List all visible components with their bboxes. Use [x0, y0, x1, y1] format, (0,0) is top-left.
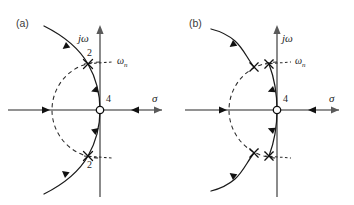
panel-b-tag: (b) [189, 18, 202, 29]
panel-b: (b) jω σ 4 ωn [177, 0, 354, 205]
omega-n-subscript-b: n [302, 61, 306, 69]
pole-marker-b-lower-outer [250, 149, 258, 157]
sigma-axis-label-b: σ [329, 93, 334, 104]
zero-value-a: 4 [106, 94, 111, 104]
locus-direction-arrow-b-1 [230, 40, 238, 47]
pole-marker-b-upper-outer [250, 63, 258, 71]
locus-direction-arrow-b-2 [268, 86, 276, 92]
locus-direction-arrow-a-4 [62, 171, 70, 178]
lower-pole-value-a: 2 [87, 160, 92, 170]
omega-n-subscript-a: n [124, 61, 128, 69]
real-axis-arrow-a-right [131, 107, 139, 114]
locus-direction-arrow-a-2 [63, 42, 71, 49]
sigma-axis-label-a: σ [152, 93, 157, 104]
panel-a-plot [0, 0, 177, 205]
zero-marker-b [273, 106, 280, 113]
panel-b-plot [177, 0, 354, 205]
omega-n-label-b: ωn [295, 56, 306, 69]
real-axis-arrow-b-left [219, 107, 227, 114]
omega-n-label-a: ωn [117, 56, 128, 69]
upper-pole-value-a: 2 [87, 48, 92, 58]
panel-a-tag: (a) [16, 18, 29, 29]
real-axis-arrow-a-left [42, 107, 50, 114]
zero-marker-a [96, 106, 103, 113]
locus-direction-arrow-b-3 [230, 173, 238, 180]
omega-n-glyph-b: ω [295, 55, 302, 66]
real-axis-arrow-b-right [308, 107, 316, 114]
omega-n-glyph-a: ω [117, 55, 124, 66]
jomega-axis-label-a: jω [78, 33, 89, 44]
zero-value-b: 4 [283, 94, 288, 104]
root-locus-figure: (a) jω σ 2 2 4 ωn [0, 0, 354, 205]
jomega-axis-label-b: jω [282, 33, 293, 44]
panel-a: (a) jω σ 2 2 4 ωn [0, 0, 177, 205]
locus-lower-outer-branch-b [211, 153, 254, 191]
locus-direction-arrow-b-4 [268, 128, 276, 134]
locus-upper-outer-branch-b [211, 29, 254, 67]
